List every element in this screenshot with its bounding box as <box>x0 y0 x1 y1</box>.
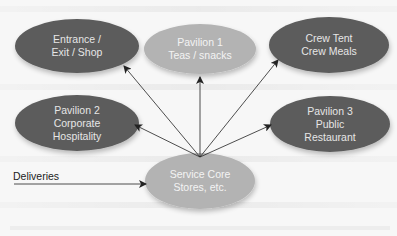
label-line: Hospitality <box>53 130 101 143</box>
label-line: Public <box>304 118 355 131</box>
diagram-canvas: Entrance / Exit / Shop Pavilion 1 Teas /… <box>0 0 397 236</box>
arrow-to-entrance <box>124 66 200 157</box>
label-line: Service Core <box>170 168 231 181</box>
label-line: Pavilion 3 <box>304 105 355 118</box>
arrow-to-crew-tent <box>200 60 278 157</box>
node-service-core-label: Service Core Stores, etc. <box>170 168 231 194</box>
deliveries-label: Deliveries <box>13 170 59 182</box>
node-pavilion-1-label: Pavilion 1 Teas / snacks <box>168 36 232 62</box>
label-line: Crew Meals <box>301 45 356 58</box>
label-line: Stores, etc. <box>170 181 231 194</box>
label-line: Pavilion 2 <box>53 104 101 117</box>
label-line: Corporate <box>53 117 101 130</box>
label-line: Entrance / <box>52 33 103 46</box>
arrow-to-pavilion-2 <box>135 125 200 157</box>
label-line: Teas / snacks <box>168 49 232 62</box>
label-line: Crew Tent <box>301 32 356 45</box>
node-crew-tent-label: Crew Tent Crew Meals <box>301 32 356 58</box>
node-pavilion-3-label: Pavilion 3 Public Restaurant <box>304 105 355 144</box>
label-line: Exit / Shop <box>52 46 103 59</box>
node-entrance-label: Entrance / Exit / Shop <box>52 33 103 59</box>
arrow-to-pavilion-3 <box>200 125 271 157</box>
node-pavilion-2-label: Pavilion 2 Corporate Hospitality <box>53 104 101 143</box>
label-line: Restaurant <box>304 131 355 144</box>
label-line: Pavilion 1 <box>168 36 232 49</box>
